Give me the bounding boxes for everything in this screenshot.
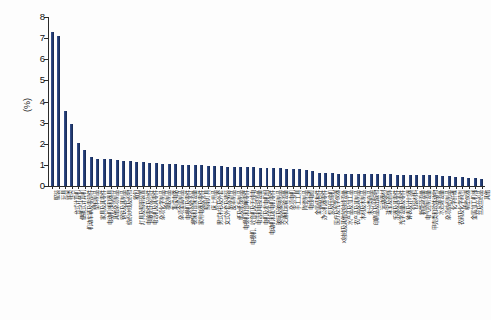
x-axis-category-label: 化学纤维 [451, 190, 457, 210]
bar [344, 174, 347, 186]
bar [207, 166, 210, 186]
x-axis-tick [397, 186, 398, 189]
x-axis-category-label: 皮革制品 [230, 190, 236, 210]
x-axis-tick [280, 186, 281, 189]
x-axis-category-label: 箱包 [133, 190, 139, 200]
x-axis-tick [306, 186, 307, 189]
x-axis-tick [221, 186, 222, 189]
bar [383, 174, 386, 186]
x-axis-category-label: 未分类商品 [367, 190, 373, 215]
plot-area: 012345678 [48, 17, 485, 186]
bar [396, 175, 399, 186]
x-axis-category-label: 乐器及其零件 [393, 190, 399, 220]
x-axis-category-label: 其他 [484, 190, 490, 200]
bar [103, 159, 106, 186]
x-axis-category-label: 交通和运输设备 [282, 190, 288, 225]
x-axis-category-label: 电视机、收音机及无线电 [250, 190, 256, 245]
x-axis-tick [104, 186, 105, 189]
bar [357, 174, 360, 186]
x-axis-category-label: 照明灯具 [204, 190, 210, 210]
y-axis-tick-label: 3 [40, 117, 45, 128]
x-axis-category-label: 光学设备及零件 [399, 190, 405, 225]
x-axis-tick [326, 186, 327, 189]
bar [129, 161, 132, 186]
bar [305, 170, 308, 186]
x-axis-tick [241, 186, 242, 189]
x-axis-category-label: 家用电器及零件 [198, 190, 204, 225]
bar [266, 168, 269, 186]
x-axis-category-label: 木材及木制品 [360, 190, 366, 220]
x-axis-category-label: 农药及化学药剂 [458, 190, 464, 225]
bar [168, 164, 171, 186]
x-axis-tick [319, 186, 320, 189]
x-axis-tick [124, 186, 125, 189]
bar [70, 124, 73, 186]
x-axis-tick [137, 186, 138, 189]
x-axis-category-label: 玻璃及玻璃制品 [276, 190, 282, 225]
bar [57, 36, 60, 186]
x-axis-category-label: 包装材料 [412, 190, 418, 210]
x-axis-category-label: 床上用品 [211, 190, 217, 210]
bar [142, 162, 145, 186]
x-axis-category-label: 电话机及其零件 [152, 190, 158, 225]
x-axis-category-label: 陶瓷制品 [302, 190, 308, 210]
x-axis-tick [98, 186, 99, 189]
bar [441, 176, 444, 186]
bar [174, 164, 177, 186]
bar [148, 163, 151, 186]
x-axis-tick [352, 186, 353, 189]
x-axis-tick [215, 186, 216, 189]
x-axis-tick [469, 186, 470, 189]
x-axis-tick [410, 186, 411, 189]
bar [77, 143, 80, 186]
x-axis-tick [345, 186, 346, 189]
x-axis-tick [247, 186, 248, 189]
bar [376, 174, 379, 186]
x-axis-category-label: 手工工具 [295, 190, 301, 210]
x-axis-category-label: 泵及压缩机 [328, 190, 334, 215]
x-axis-category-label: 金属结构件 [315, 190, 321, 215]
x-axis-category-label: 杂项化学制品 [159, 190, 165, 220]
x-axis-tick [189, 186, 190, 189]
x-axis-tick [267, 186, 268, 189]
x-axis-tick [475, 186, 476, 189]
bar-series [49, 17, 485, 186]
bar [239, 167, 242, 186]
x-axis-tick [456, 186, 457, 189]
x-axis-category-label: 灯具及照明装置 [139, 190, 145, 225]
x-axis-category-labels: 服装玩具鞋类台式计算机便携式计算机机动车辆及零部件塑料制品家具及其零件电动机械和… [49, 190, 485, 316]
x-axis-tick [208, 186, 209, 189]
x-axis-tick [332, 186, 333, 189]
bar [428, 175, 431, 186]
bar [200, 165, 203, 186]
x-axis-tick [436, 186, 437, 189]
bar [109, 159, 112, 186]
x-axis-tick [163, 186, 164, 189]
x-axis-category-label: 水产品及加工品 [347, 190, 353, 225]
x-axis-category-label: 电机及发电机组 [263, 190, 269, 225]
x-axis-category-label: 电脑零件及附件 [146, 190, 152, 225]
x-axis-category-label: 纺织纱线及织物 [126, 190, 132, 225]
x-axis-tick [117, 186, 118, 189]
x-axis-tick [85, 186, 86, 189]
bar [272, 168, 275, 186]
x-axis-category-label: 鞋类 [67, 190, 73, 200]
bar [116, 160, 119, 186]
x-axis-category-label: 钟表及计时器 [406, 190, 412, 220]
x-axis-category-label: 橡胶制品 [165, 190, 171, 210]
bar [370, 174, 373, 186]
bar [51, 32, 54, 186]
x-axis-tick [169, 186, 170, 189]
x-axis-tick [443, 186, 444, 189]
x-axis-tick [404, 186, 405, 189]
x-axis-category-label: 塑料制品 [93, 190, 99, 210]
x-axis-category-label: 甲壳类和软体动物 [432, 190, 438, 230]
x-axis-tick [358, 186, 359, 189]
x-axis-tick [423, 186, 424, 189]
x-axis-category-label: 运动器材 [380, 190, 386, 210]
x-axis-category-label: 医疗及光学仪器 [334, 190, 340, 225]
bar [454, 177, 457, 186]
x-axis-category-label: 电动机和发电机零件 [269, 190, 275, 235]
x-axis-tick [287, 186, 288, 189]
x-axis-tick [111, 186, 112, 189]
